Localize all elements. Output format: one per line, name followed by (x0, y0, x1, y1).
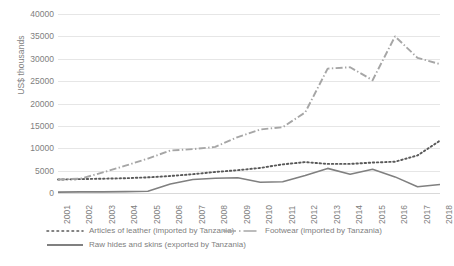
legend-label-raw-hides: Raw hides and skins (exported by Tanzani… (89, 240, 246, 250)
legend-label-articles-of-leather: Articles of leather (imported by Tanzani… (89, 226, 234, 236)
legend-item-footwear: Footwear (imported by Tanzania) (222, 226, 382, 236)
y-axis-tick-label: 35000 (14, 31, 54, 41)
series-line (58, 141, 440, 180)
y-axis-tick-label: 20000 (14, 98, 54, 108)
legend-swatch-dash-dot-icon (222, 227, 260, 235)
legend-item-raw-hides: Raw hides and skins (exported by Tanzani… (46, 240, 246, 250)
chart-legend: Articles of leather (imported by Tanzani… (0, 222, 446, 266)
legend-swatch-dotted-icon (46, 227, 84, 235)
series-line (58, 168, 440, 192)
y-axis-tick-label: 25000 (14, 76, 54, 86)
plot-area: 0500010000150002000025000300003500040000 (58, 14, 440, 193)
legend-swatch-solid-icon (46, 241, 84, 249)
y-axis-tick-label: 40000 (14, 9, 54, 19)
legend-label-footwear: Footwear (imported by Tanzania) (265, 226, 382, 236)
y-axis-tick-label: 10000 (14, 143, 54, 153)
legend-item-articles-of-leather: Articles of leather (imported by Tanzani… (46, 226, 234, 236)
y-axis-tick-label: 0 (14, 188, 54, 198)
y-axis-tick-label: 5000 (14, 165, 54, 175)
series-line (58, 36, 440, 179)
series-lines (58, 14, 440, 193)
y-axis-tick-label: 15000 (14, 120, 54, 130)
y-axis-tick-label: 30000 (14, 53, 54, 63)
